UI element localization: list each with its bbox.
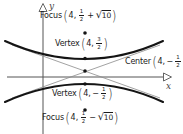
paren-close: )	[112, 9, 117, 23]
plus-operator: +	[87, 12, 94, 20]
vertex-top-point	[83, 57, 87, 61]
paren-open: (	[78, 87, 83, 101]
fraction: 12	[101, 87, 106, 100]
x-axis-arrow-icon	[164, 73, 172, 81]
paren-open: (	[63, 9, 68, 23]
focus-top-point	[83, 31, 87, 35]
focus-top-label: Focus(4,12+√10)	[40, 9, 117, 22]
point-name: Vertex	[52, 90, 77, 98]
paren-open: (	[65, 111, 70, 125]
point-name: Focus	[42, 114, 64, 122]
vertex-bottom-point	[83, 82, 87, 86]
paren-close: )	[108, 87, 113, 101]
fraction: 12	[79, 9, 84, 22]
fraction: 12	[81, 111, 86, 124]
minus-sign: −	[92, 90, 99, 98]
focus-bottom-label: Focus(4,12−√10)	[42, 111, 119, 124]
paren-close: )	[182, 55, 183, 69]
fraction: 12	[175, 55, 180, 68]
paren-open: (	[152, 55, 157, 69]
point-name: Focus	[40, 12, 62, 20]
x-coordinate: 4,	[69, 12, 77, 20]
x-coordinate: 4,	[86, 40, 94, 48]
paren-close: )	[103, 37, 108, 51]
minus-operator: −	[89, 114, 96, 122]
point-name: Vertex	[55, 40, 80, 48]
x-coordinate: 4,	[83, 90, 91, 98]
radical: √10	[98, 112, 113, 122]
x-coordinate: 4,	[71, 114, 79, 122]
fraction: 32	[96, 37, 101, 50]
radical: √10	[96, 10, 111, 20]
x-coordinate: 4,	[157, 58, 165, 66]
radicand: 10	[102, 10, 112, 20]
minus-sign: −	[167, 58, 174, 66]
paren-close: )	[114, 111, 119, 125]
radicand: 10	[104, 112, 114, 122]
point-name: Center	[125, 58, 151, 66]
paren-open: (	[81, 37, 86, 51]
x-axis-label: x	[166, 81, 171, 91]
vertex-bottom-label: Vertex(4,−12)	[52, 87, 113, 100]
center-label: Center(4,−12)	[125, 55, 183, 68]
vertex-top-label: Vertex(4,32)	[55, 37, 108, 50]
center-point	[83, 69, 87, 73]
hyperbola-figure: y x Focus(4,12+√10) Vertex(4,32) Center(…	[0, 0, 183, 134]
